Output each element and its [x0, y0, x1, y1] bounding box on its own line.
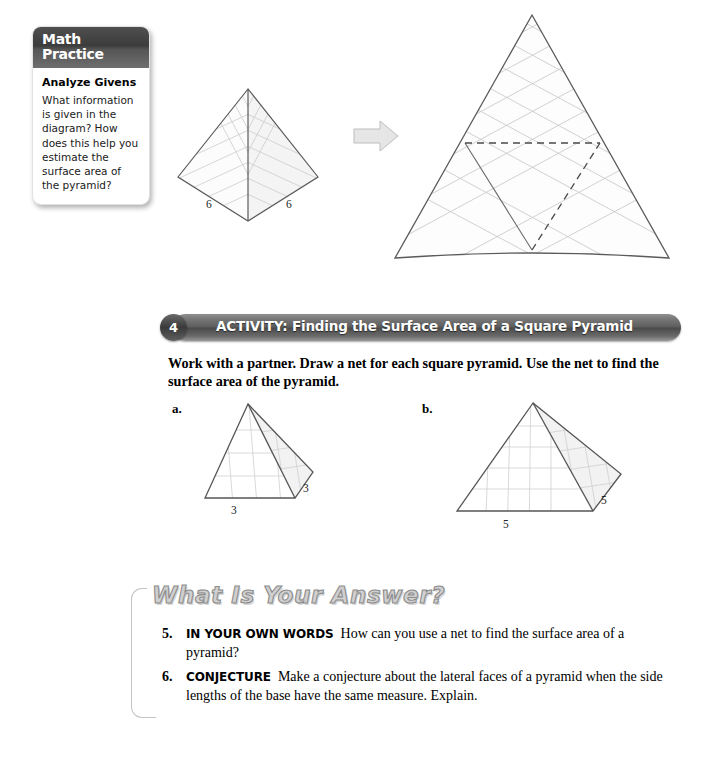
math-practice-title-line-1: Math: [42, 32, 140, 47]
answer-item-tag: IN YOUR OWN WORDS: [186, 627, 334, 641]
pyramid-figure-b: 5 5: [445, 398, 630, 533]
part-b-label: b.: [422, 401, 432, 417]
pyramid-figure-a: 3 3: [195, 400, 320, 520]
math-practice-body: Analyze Givens What information is given…: [33, 68, 149, 204]
math-practice-text: What information is given in the diagram…: [42, 93, 140, 192]
activity-header: 4 ACTIVITY: Finding the Surface Area of …: [160, 314, 681, 341]
what-is-your-answer-section: What Is Your Answer? 5. IN YOUR OWN WORD…: [131, 588, 684, 716]
math-practice-callout: Math Practice Analyze Givens What inform…: [32, 26, 150, 205]
answer-item-number: 6.: [162, 668, 182, 687]
math-practice-subtitle: Analyze Givens: [42, 76, 140, 89]
net-figure-large: [390, 10, 675, 270]
answer-item: 6. CONJECTURE Make a conjecture about th…: [162, 668, 682, 705]
pyramid-b-base-label: 5: [503, 518, 509, 530]
pyramid-top-label-left: 6: [206, 198, 212, 210]
pyramid-a-base-label: 3: [231, 504, 237, 516]
activity-instructions: Work with a partner. Draw a net for each…: [168, 355, 676, 390]
pyramid-top-label-right: 6: [286, 198, 292, 210]
pyramid-figure-top: 6 6: [170, 85, 330, 230]
answer-item: 5. IN YOUR OWN WORDS How can you use a n…: [162, 625, 672, 662]
math-practice-header: Math Practice: [33, 27, 149, 68]
answer-item-body: CONJECTURE Make a conjecture about the l…: [186, 668, 682, 705]
math-practice-title-line-2: Practice: [42, 47, 140, 62]
activity-title: ACTIVITY: Finding the Surface Area of a …: [216, 318, 633, 334]
answer-item-tag: CONJECTURE: [186, 670, 271, 684]
pyramid-a-side-label: 3: [303, 482, 309, 494]
answer-section-title: What Is Your Answer?: [147, 582, 450, 608]
answer-item-number: 5.: [162, 625, 182, 644]
pyramid-b-side-label: 5: [601, 494, 607, 506]
answer-item-body: IN YOUR OWN WORDS How can you use a net …: [186, 625, 672, 662]
part-a-label: a.: [172, 401, 182, 417]
activity-number-badge: 4: [160, 314, 187, 341]
